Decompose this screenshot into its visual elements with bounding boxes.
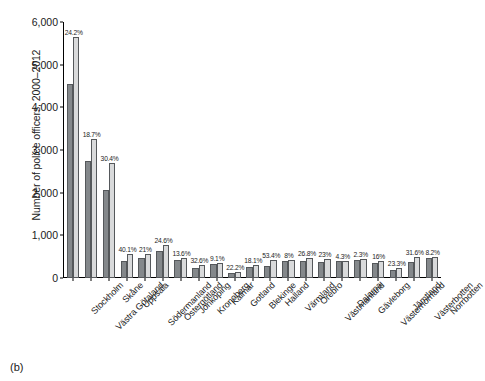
bar-value-label: 9.1% [210, 255, 224, 262]
bar-2012 [324, 259, 330, 278]
bar-value-label: 30.4% [101, 155, 119, 162]
y-tick-label: 6,000 [32, 16, 63, 28]
bar-value-label: 31.6% [406, 249, 424, 256]
bar-2012 [91, 139, 97, 278]
bar-2012 [109, 163, 115, 278]
y-tick-mark [60, 107, 63, 108]
y-tick-label: 5,000 [32, 59, 63, 71]
bar-group: 9.1% [208, 22, 226, 278]
bar-value-label: 32.6% [190, 257, 208, 264]
bar-value-label: 8% [284, 252, 293, 259]
bar-2012 [288, 260, 294, 278]
x-tick-mark [126, 278, 127, 281]
bar-2012 [378, 261, 384, 278]
bar-value-label: 18.7% [83, 131, 101, 138]
bar-2012 [127, 254, 133, 278]
y-tick-mark [60, 22, 63, 23]
bar-2012 [270, 260, 276, 278]
bar-group: 16% [369, 22, 387, 278]
bar-value-label: 40.1% [119, 246, 137, 253]
x-tick-mark [306, 278, 307, 281]
bar-2012 [145, 254, 151, 278]
bar-group: 31.6% [405, 22, 423, 278]
bar-value-label: 16% [372, 253, 385, 260]
bar-value-label: 24.2% [65, 29, 83, 36]
y-tick-mark [60, 235, 63, 236]
bar-2012 [432, 257, 438, 278]
bar-group: 22.2% [226, 22, 244, 278]
x-tick-mark [396, 278, 397, 281]
x-tick-label: Örebro [318, 280, 344, 306]
bar-2012 [342, 261, 348, 278]
x-tick-mark [234, 278, 235, 281]
bar-group: 13.6% [172, 22, 190, 278]
x-tick-mark [90, 278, 91, 281]
bar-2012 [396, 268, 402, 278]
bar-group: 40.1% [118, 22, 136, 278]
bar-value-label: 53.4% [262, 252, 280, 259]
bar-2012 [163, 245, 169, 278]
y-tick-label: 1,000 [32, 229, 63, 241]
x-tick-mark [180, 278, 181, 281]
bar-2012 [306, 258, 312, 278]
x-tick-mark [72, 278, 73, 281]
y-tick-mark [60, 64, 63, 65]
bar-group: 24.6% [154, 22, 172, 278]
bar-group: 23.3% [387, 22, 405, 278]
x-tick-mark [144, 278, 145, 281]
bar-2012 [181, 258, 187, 278]
x-tick-mark [252, 278, 253, 281]
bar-2012 [235, 272, 241, 278]
bar-2012 [360, 259, 366, 278]
bar-value-label: 26.8% [298, 250, 316, 257]
bar-value-label: 18.1% [244, 257, 262, 264]
bar-group: 2.3% [351, 22, 369, 278]
x-tick-mark [360, 278, 361, 281]
bar-group: 8% [279, 22, 297, 278]
y-tick-label: 2,000 [32, 187, 63, 199]
y-tick-label: 4,000 [32, 101, 63, 113]
bar-group: 53.4% [261, 22, 279, 278]
bar-2012 [414, 257, 420, 278]
y-tick-label: 3,000 [32, 144, 63, 156]
bar-2012 [217, 263, 223, 278]
x-tick-mark [342, 278, 343, 281]
plot-area: 01,0002,0003,0004,0005,0006,000 24.2%18.… [63, 22, 441, 278]
bar-group: 26.8% [297, 22, 315, 278]
bar-group: 18.7% [82, 22, 100, 278]
bar-group: 18.1% [244, 22, 262, 278]
y-tick-mark [60, 150, 63, 151]
bar-groups: 24.2%18.7%30.4%40.1%21%24.6%13.6%32.6%9.… [64, 22, 441, 278]
bar-value-label: 2.3% [354, 251, 368, 258]
bar-group: 32.6% [190, 22, 208, 278]
x-tick-mark [414, 278, 415, 281]
bar-group: 4.3% [333, 22, 351, 278]
bar-value-label: 24.6% [154, 237, 172, 244]
bar-group: 24.2% [64, 22, 82, 278]
bar-value-label: 23.3% [388, 260, 406, 267]
bar-value-label: 22.2% [226, 264, 244, 271]
bar-group: 8.2% [423, 22, 441, 278]
bar-group: 23% [315, 22, 333, 278]
y-tick-mark [60, 192, 63, 193]
bar-group: 30.4% [100, 22, 118, 278]
bar-value-label: 13.6% [172, 250, 190, 257]
bar-value-label: 8.2% [425, 249, 439, 256]
bar-value-label: 21% [139, 246, 152, 253]
bar-value-label: 4.3% [336, 253, 350, 260]
x-tick-mark [108, 278, 109, 281]
bar-group: 21% [136, 22, 154, 278]
y-tick-mark [60, 278, 63, 279]
figure-caption: (b) [10, 361, 23, 373]
x-tick-mark [324, 278, 325, 281]
x-tick-label: Jämtland [411, 280, 443, 312]
y-axis-title: Number of police officers, 2000–2012 [30, 8, 42, 263]
x-tick-mark [432, 278, 433, 281]
x-tick-mark [198, 278, 199, 281]
bar-2012 [253, 265, 259, 278]
bar-2012 [73, 37, 79, 278]
bar-2012 [199, 265, 205, 278]
bar-value-label: 23% [318, 251, 331, 258]
